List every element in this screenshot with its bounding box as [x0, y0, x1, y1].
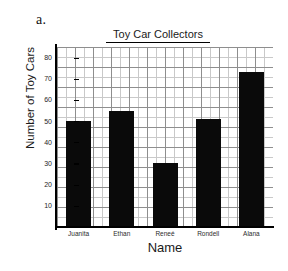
- y-tick-mark: [74, 58, 79, 59]
- y-tick-mark: [74, 206, 79, 207]
- y-tick-label: 20: [30, 181, 52, 188]
- bar: [66, 121, 91, 227]
- bar: [153, 163, 178, 227]
- plot-area: [57, 47, 273, 227]
- x-category-label: Ethan: [100, 230, 143, 238]
- x-category-label: Reneé: [143, 230, 186, 238]
- x-axis-title: Name: [55, 240, 275, 255]
- y-tick-mark: [74, 142, 79, 143]
- y-axis-ticks: 1020304050607080: [24, 0, 52, 271]
- y-axis-line: [55, 44, 57, 230]
- y-tick-mark: [74, 79, 79, 80]
- x-category-label: Juanita: [57, 230, 100, 238]
- y-tick-mark: [74, 121, 79, 122]
- chart-title: Toy Car Collectors: [106, 28, 210, 43]
- chart-title-container: Toy Car Collectors: [88, 24, 228, 43]
- y-tick-label: 10: [30, 202, 52, 209]
- y-tick-label: 30: [30, 160, 52, 167]
- y-tick-mark: [74, 185, 79, 186]
- y-tick-label: 60: [30, 96, 52, 103]
- y-tick-label: 40: [30, 139, 52, 146]
- y-tick-label: 50: [30, 118, 52, 125]
- x-category-label: Alana: [230, 230, 273, 238]
- bar: [196, 119, 221, 227]
- worksheet-figure: a. Toy Car Collectors Number of Toy Cars…: [0, 0, 288, 271]
- x-axis-line: [55, 226, 274, 228]
- y-tick-mark: [74, 163, 79, 164]
- y-tick-label: 70: [30, 75, 52, 82]
- x-category-label: Rondell: [187, 230, 230, 238]
- y-tick-mark: [74, 100, 79, 101]
- bar: [239, 72, 264, 227]
- y-tick-label: 80: [30, 54, 52, 61]
- bar: [109, 111, 134, 227]
